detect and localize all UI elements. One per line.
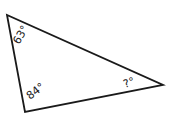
angle-label-top-left: 63°	[10, 23, 31, 46]
triangle-diagram: 63° 84° ?°	[0, 0, 176, 117]
angle-label-right: ?°	[122, 75, 137, 91]
angle-label-bottom-left: 84°	[24, 80, 47, 102]
